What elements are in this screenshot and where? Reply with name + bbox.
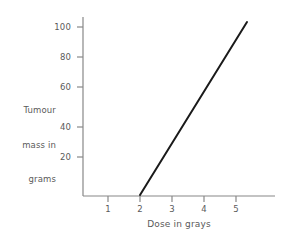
x-tick-label-1: 1	[101, 204, 115, 214]
x-axis-label: Dose in grays	[83, 219, 275, 231]
y-axis-label-line-3: grams	[4, 174, 56, 186]
y-tick-label-100: 100	[45, 22, 71, 32]
y-axis-label-line-2: mass in	[4, 140, 56, 152]
y-tick-label-20: 20	[45, 152, 71, 162]
x-tick-label-5: 5	[229, 204, 243, 214]
chart-figure: Tumour mass in grams Dose in grays 100 8…	[0, 0, 287, 243]
y-axis-label-line-1: Tumour	[4, 105, 56, 117]
x-axis-ticks	[108, 196, 236, 202]
y-tick-label-60: 60	[45, 82, 71, 92]
y-axis-label: Tumour mass in grams	[4, 82, 56, 209]
x-tick-label-4: 4	[197, 204, 211, 214]
data-series-line	[140, 22, 247, 195]
x-tick-label-2: 2	[133, 204, 147, 214]
x-tick-label-3: 3	[165, 204, 179, 214]
y-tick-label-80: 80	[45, 52, 71, 62]
y-axis-ticks	[77, 27, 83, 157]
y-tick-label-40: 40	[45, 122, 71, 132]
